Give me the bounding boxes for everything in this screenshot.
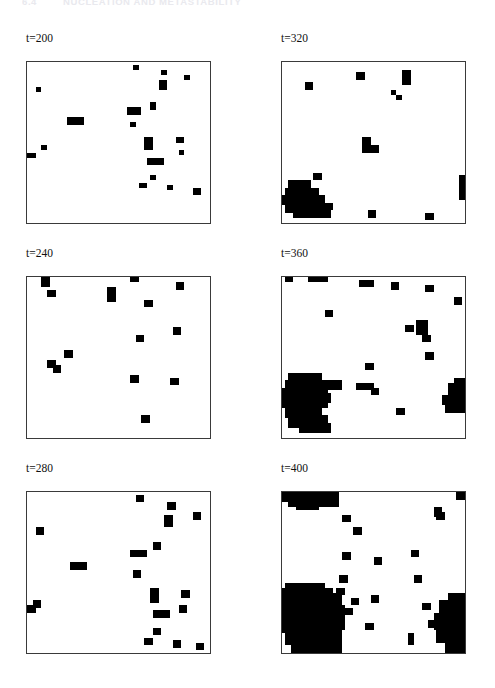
panel-t280: t=280: [26, 462, 212, 656]
lattice-surface-t320: [282, 62, 465, 223]
lattice-surface-t200: [27, 62, 210, 223]
running-head: 6.4NUCLEATION AND METASTABILITY: [22, 0, 462, 8]
running-head-title: NUCLEATION AND METASTABILITY: [63, 0, 241, 7]
panel-label-t280: t=280: [26, 462, 53, 474]
panel-label-t360: t=360: [281, 247, 308, 259]
lattice-surface-t280: [27, 492, 210, 653]
panel-t240: t=240: [26, 247, 212, 441]
lattice-frame-t400: [281, 491, 466, 654]
panel-t200: t=200: [26, 32, 212, 226]
lattice-surface-t400: [282, 492, 465, 653]
lattice-frame-t280: [26, 491, 211, 654]
panel-label-t320: t=320: [281, 32, 308, 44]
lattice-frame-t240: [26, 276, 211, 439]
lattice-frame-t360: [281, 276, 466, 439]
lattice-frame-t200: [26, 61, 211, 224]
panel-t320: t=320: [281, 32, 467, 226]
panel-t400: t=400: [281, 462, 467, 656]
panel-label-t400: t=400: [281, 462, 308, 474]
panel-t360: t=360: [281, 247, 467, 441]
lattice-surface-t360: [282, 277, 465, 438]
lattice-surface-t240: [27, 277, 210, 438]
running-head-chapter-number: 6.4: [22, 0, 37, 7]
panel-label-t200: t=200: [26, 32, 53, 44]
panel-label-t240: t=240: [26, 247, 53, 259]
lattice-frame-t320: [281, 61, 466, 224]
